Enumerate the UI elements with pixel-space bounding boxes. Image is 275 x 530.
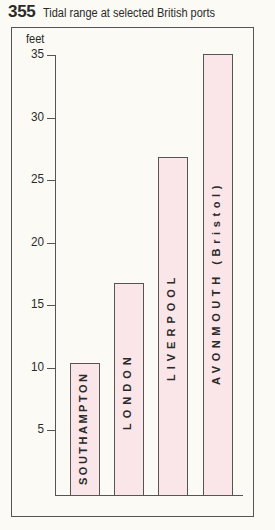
- y-tick-label-20: 20: [21, 234, 44, 249]
- y-tick-5: [47, 430, 56, 431]
- y-tick-label-15: 15: [21, 296, 44, 311]
- y-axis-unit: feet: [26, 31, 44, 46]
- y-tick-label-35: 35: [21, 46, 44, 61]
- bar-label-avonmouth: AVONMOUTH (Bristol): [210, 181, 222, 385]
- bar-label-london: LONDON: [121, 352, 133, 430]
- figure-title: Tidal range at selected British ports: [43, 6, 215, 20]
- y-tick-label-5: 5: [21, 421, 44, 436]
- bar-label-liverpool: LIVERPOOL: [165, 272, 177, 381]
- y-tick-15: [47, 305, 56, 306]
- figure-number: 355: [8, 2, 35, 21]
- y-tick-35: [47, 55, 56, 56]
- chart-title: 355 Tidal range at selected British port…: [8, 2, 238, 22]
- y-tick-20: [47, 243, 56, 244]
- y-tick-25: [47, 180, 56, 181]
- bar-label-southampton: SOUTHAMPTON: [77, 372, 89, 485]
- y-tick-30: [47, 118, 56, 119]
- y-tick-label-30: 30: [21, 109, 44, 124]
- y-tick-10: [47, 368, 56, 369]
- y-tick-label-25: 25: [21, 171, 44, 186]
- y-tick-label-10: 10: [21, 359, 44, 374]
